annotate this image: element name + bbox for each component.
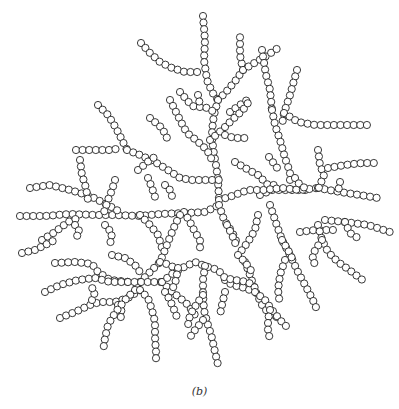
figure-caption: (b) [0, 385, 399, 398]
bead-circle [227, 276, 234, 283]
bead-circle [353, 191, 360, 198]
bead-circle [144, 278, 151, 285]
bead-circle [212, 162, 219, 169]
bead-circle [314, 146, 321, 153]
bead-circle [84, 195, 91, 202]
bead-circle [63, 211, 70, 218]
bead-circle [168, 192, 175, 199]
bead-circle [196, 98, 203, 105]
bead-circle [151, 315, 158, 322]
bead-circle [151, 328, 158, 335]
bead-circle [99, 146, 106, 153]
bead-circle [241, 134, 248, 141]
bead-circle [268, 106, 275, 113]
bead-circle [151, 322, 158, 329]
bead-circle [211, 347, 218, 354]
bead-circle [270, 113, 277, 120]
bead-circle [170, 284, 177, 291]
bead-circle [202, 176, 209, 183]
branch-chain [280, 109, 370, 128]
bead-circle [152, 341, 159, 348]
bead-circle [124, 278, 131, 285]
bead-circle [187, 68, 194, 75]
bead-circle [266, 333, 273, 340]
bead-circle [107, 238, 114, 245]
bead-circle [273, 185, 280, 192]
bead-circle [203, 72, 210, 79]
bead-circle [86, 146, 93, 153]
bead-circle [317, 121, 324, 128]
branch-chain [265, 153, 280, 171]
bead-circle [201, 52, 208, 59]
bead-circle [201, 32, 208, 39]
bead-circle [33, 183, 40, 190]
bead-circle [268, 98, 275, 105]
bead-circle [276, 295, 283, 302]
bead-circle [277, 269, 284, 276]
bead-circle [201, 39, 208, 46]
bead-circle [111, 278, 118, 285]
bead-circle [115, 253, 122, 260]
bead-circle [209, 107, 216, 114]
bead-circle [324, 121, 331, 128]
bead-circle [363, 121, 370, 128]
bead-circle [210, 116, 217, 123]
bead-circle [247, 186, 254, 193]
bead-circle [273, 45, 280, 52]
bead-circle [201, 269, 208, 276]
bead-circle [185, 320, 192, 327]
bead-circle [327, 187, 334, 194]
bead-circle [215, 188, 222, 195]
bead-circle [344, 121, 351, 128]
bead-circle [79, 276, 86, 283]
bead-circle [253, 218, 260, 225]
bead-circle [72, 146, 79, 153]
bead-circle [182, 175, 189, 182]
bead-circle [315, 153, 322, 160]
bead-circle [202, 65, 209, 72]
bead-circle [199, 282, 206, 289]
bead-circle [117, 313, 124, 320]
bead-circle [77, 163, 84, 170]
bead-circle [208, 334, 215, 341]
bead-circle [194, 68, 201, 75]
bead-circle [264, 319, 271, 326]
bead-circle [266, 306, 273, 313]
bead-circle [236, 34, 243, 41]
bead-circle [261, 59, 268, 66]
bead-circle [244, 100, 251, 107]
bead-circle [312, 304, 319, 311]
branch-chain [71, 221, 82, 239]
bead-circle [82, 211, 89, 218]
bead-circle [296, 228, 303, 235]
bead-circle [262, 66, 269, 73]
bead-circle [258, 46, 265, 53]
bead-circle [101, 208, 108, 215]
bead-circle [195, 176, 202, 183]
bead-circle [266, 85, 273, 92]
bead-circle [136, 268, 143, 275]
branch-chain [238, 211, 262, 254]
bead-circle [49, 212, 56, 219]
bead-circle [276, 275, 283, 282]
bead-circle [200, 276, 207, 283]
bead-circle [373, 194, 380, 201]
bead-circle [103, 330, 110, 337]
bead-circle [335, 218, 342, 225]
bead-circle [180, 68, 187, 75]
bead-circle [357, 160, 364, 167]
branch-chain [221, 131, 248, 141]
branch-chain [324, 159, 377, 171]
bead-circle [83, 189, 90, 196]
bead-circle [92, 146, 99, 153]
bead-circle [89, 211, 96, 218]
bead-circle [72, 277, 79, 284]
bead-circle [311, 121, 318, 128]
bead-circle [194, 91, 201, 98]
bead-circle [331, 163, 338, 170]
bead-circle [151, 193, 158, 200]
bead-circle [353, 234, 360, 241]
branch-chain [72, 146, 119, 154]
bead-circle [232, 239, 239, 246]
branch-chain [314, 221, 365, 283]
